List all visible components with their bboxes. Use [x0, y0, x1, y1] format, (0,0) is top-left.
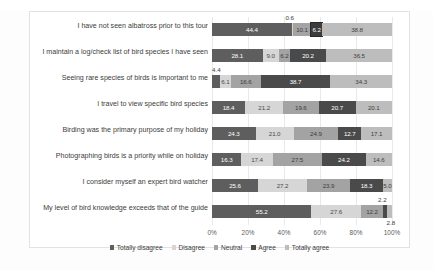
stacked-bar: 55.227.612.22.22.8	[212, 205, 392, 218]
bar-row: Seeing rare species of birds is importan…	[212, 69, 392, 95]
legend-swatch-icon	[285, 245, 290, 250]
bar-segment-totally-disagree[interactable]: 24.3	[212, 127, 256, 140]
bar-segment-totally-agree[interactable]: 14.6	[366, 153, 392, 166]
bar-segment-totally-disagree[interactable]: 28.1	[212, 49, 263, 62]
row-label: My level of bird knowledge exceeds that …	[30, 204, 208, 212]
legend-label: Agree	[258, 244, 276, 251]
segment-value: 17.1	[371, 130, 383, 137]
legend-swatch-icon	[214, 245, 219, 250]
bar-segment-agree[interactable]: 18.3	[350, 179, 383, 192]
legend-item-totally-agree[interactable]: Totally agree	[285, 244, 329, 251]
bar-segment-totally-disagree[interactable]: 55.2	[212, 205, 311, 218]
bar-row: Birding was the primary purpose of my ho…	[212, 121, 392, 147]
bar-row: I travel to view specific bird species18…	[212, 95, 392, 121]
bar-segment-totally-agree[interactable]: 5.0	[383, 179, 392, 192]
segment-value: 17.4	[251, 156, 263, 163]
segment-value: 12.2	[366, 208, 378, 215]
bar-segment-agree[interactable]: 20.2	[290, 49, 326, 62]
stacked-bar: 24.321.024.912.717.1	[212, 127, 392, 140]
bar-segment-neutral[interactable]: 16.6	[231, 75, 261, 88]
bar-segment-totally-agree[interactable]: 2.8	[387, 205, 392, 218]
bar-segment-neutral[interactable]: 12.2	[361, 205, 383, 218]
segment-value: 12.7	[344, 130, 356, 137]
bar-segment-totally-agree[interactable]: 34.3	[330, 75, 392, 88]
bar-segment-agree[interactable]: 38.7	[261, 75, 331, 88]
legend-label: Disagree	[179, 244, 205, 251]
gridline-100%	[392, 17, 393, 225]
legend-item-totally-disagree[interactable]: Totally disagree	[110, 244, 163, 251]
bar-segment-totally-agree[interactable]: 38.8	[322, 23, 392, 36]
segment-value: 20.1	[368, 104, 380, 111]
row-label: I maintain a log/check list of bird spec…	[30, 48, 208, 56]
bar-row: My level of bird knowledge exceeds that …	[212, 199, 392, 225]
bar-segment-totally-disagree[interactable]: 25.6	[212, 179, 258, 192]
bar-row: I consider myself an expert bird watcher…	[212, 173, 392, 199]
bar-segment-neutral[interactable]: 27.5	[273, 153, 323, 166]
segment-value: 6.2	[280, 52, 288, 59]
segment-value: 20.2	[302, 52, 314, 59]
bar-segment-totally-agree[interactable]: 36.5	[326, 49, 392, 62]
bar-segment-disagree[interactable]: 21.0	[256, 127, 294, 140]
legend-label: Totally agree	[292, 244, 329, 251]
bar-segment-agree[interactable]: 20.7	[319, 101, 356, 114]
legend-item-neutral[interactable]: Neutral	[214, 244, 242, 251]
bar-segment-totally-disagree[interactable]: 4.4	[212, 75, 220, 88]
stacked-bar: 28.19.06.220.236.5	[212, 49, 392, 62]
stacked-bar-chart: I have not seen albatross prior to this …	[29, 11, 410, 248]
stacked-bar: 25.627.223.918.35.0	[212, 179, 392, 192]
segment-value: 20.7	[331, 104, 343, 111]
x-tick-0%: 0%	[207, 229, 216, 236]
bar-segment-totally-agree[interactable]: 17.1	[361, 127, 392, 140]
bar-segment-disagree[interactable]: 17.4	[241, 153, 272, 166]
segment-value: 24.9	[310, 130, 322, 137]
bar-segment-disagree[interactable]: 27.6	[311, 205, 361, 218]
legend-swatch-icon	[172, 245, 177, 250]
segment-value: 5.0	[383, 182, 391, 189]
bar-row: Photographing birds is a priority while …	[212, 147, 392, 173]
legend-item-agree[interactable]: Agree	[251, 244, 276, 251]
row-label: I have not seen albatross prior to this …	[30, 22, 208, 30]
bar-segment-neutral[interactable]: 6.2	[279, 49, 290, 62]
x-tick-60%: 60%	[314, 229, 327, 236]
segment-value: 9.0	[267, 52, 275, 59]
bar-segment-disagree[interactable]: 27.2	[258, 179, 307, 192]
legend-item-disagree[interactable]: Disagree	[172, 244, 205, 251]
segment-value: 24.3	[228, 130, 240, 137]
x-tick-100%: 100%	[384, 229, 400, 236]
bar-segment-neutral[interactable]: 23.9	[307, 179, 350, 192]
segment-value: 28.1	[231, 52, 243, 59]
segment-value: 38.8	[351, 26, 363, 33]
segment-value: 14.6	[373, 156, 385, 163]
segment-value: 38.7	[290, 78, 302, 85]
legend-label: Neutral	[221, 244, 242, 251]
bar-segment-totally-agree[interactable]: 20.1	[356, 101, 392, 114]
segment-value: 27.6	[330, 208, 342, 215]
segment-value: 24.2	[338, 156, 350, 163]
segment-value: 19.6	[295, 104, 307, 111]
segment-callout-label: 0.6	[285, 14, 294, 21]
bar-segment-agree[interactable]: 6.2	[311, 23, 322, 36]
bar-segment-totally-disagree[interactable]: 16.3	[212, 153, 241, 166]
segment-value: 10.1	[296, 26, 308, 33]
stacked-bar: 4.46.116.638.734.3	[212, 75, 392, 88]
segment-value: 6.1	[221, 78, 229, 85]
bar-segment-disagree[interactable]: 21.2	[245, 101, 283, 114]
stacked-bar: 44.40.610.16.238.8	[212, 23, 392, 36]
bar-segment-neutral[interactable]: 19.6	[283, 101, 318, 114]
legend-swatch-icon	[110, 245, 115, 250]
bar-segment-agree[interactable]: 24.2	[322, 153, 366, 166]
chart-page: I have not seen albatross prior to this …	[0, 0, 433, 270]
bar-segment-disagree[interactable]: 9.0	[263, 49, 279, 62]
bar-segment-disagree[interactable]: 6.1	[220, 75, 231, 88]
legend-label: Totally disagree	[117, 244, 163, 251]
segment-callout-label: 4.4	[212, 66, 221, 73]
segment-value: 27.2	[277, 182, 289, 189]
segment-value: 16.3	[221, 156, 233, 163]
bar-segment-totally-disagree[interactable]: 18.4	[212, 101, 245, 114]
bar-segment-neutral[interactable]: 24.9	[294, 127, 339, 140]
stacked-bar: 18.421.219.620.720.1	[212, 101, 392, 114]
x-tick-20%: 20%	[242, 229, 255, 236]
bar-segment-totally-disagree[interactable]: 44.4	[212, 23, 292, 36]
bar-segment-agree[interactable]: 12.7	[338, 127, 361, 140]
bar-segment-neutral[interactable]: 10.1	[293, 23, 311, 36]
